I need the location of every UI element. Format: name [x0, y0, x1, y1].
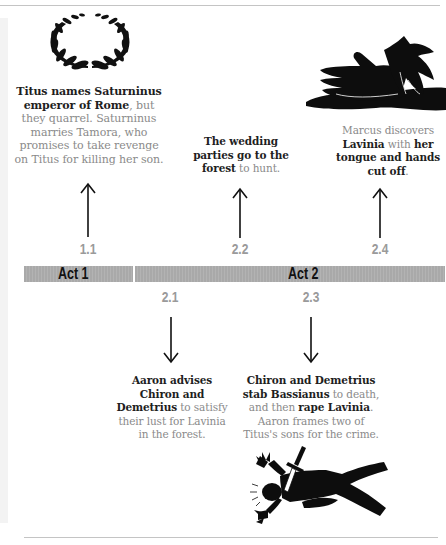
event-2-4-text-a: Marcus discovers: [342, 124, 434, 136]
act-2-label: Act 2: [288, 266, 319, 282]
arrow-up-2-2-icon: [232, 187, 248, 239]
event-2-3-bold-b: rape Lavinia: [298, 401, 370, 413]
bottom-rule: [24, 537, 438, 538]
event-2-4-bold-a: Lavinia: [343, 138, 385, 150]
scene-label-2-4: 2.4: [364, 240, 396, 257]
laurel-wreath-icon: [44, 12, 136, 74]
scene-label-2-3: 2.3: [295, 288, 327, 305]
event-2-2-description: The wedding parties go to the forest to …: [186, 135, 296, 176]
event-2-3-description: Chiron and Demetrius stab Bassianus to d…: [240, 374, 382, 442]
event-2-2-body-text: to hunt.: [236, 162, 280, 174]
event-2-4-text-b: with: [385, 138, 414, 150]
act-2-bar: Act 2: [135, 266, 445, 282]
arrow-up-1-1-icon: [80, 182, 96, 238]
side-panel: [0, 18, 8, 523]
event-2-4-text-c: .: [405, 165, 408, 177]
act-1-label: Act 1: [58, 266, 89, 282]
event-2-1-description: Aaron advises Chiron and Demetrius to sa…: [113, 374, 231, 442]
scene-label-1-1: 1.1: [72, 240, 104, 257]
arrow-up-2-4-icon: [372, 187, 388, 239]
severed-hands-icon: [306, 36, 446, 114]
scene-label-2-2: 2.2: [224, 240, 256, 257]
arrow-down-2-1-icon: [163, 316, 179, 364]
act-1-bar: Act 1: [24, 266, 133, 282]
top-rule: [0, 5, 440, 6]
stabbed-figure-icon: [246, 446, 396, 526]
event-1-1-description: Titus names Saturninus emperor of Rome, …: [14, 85, 164, 166]
arrow-down-2-3-icon: [303, 316, 319, 364]
scene-label-2-1: 2.1: [154, 288, 186, 305]
event-2-4-description: Marcus discovers Lavinia with her tongue…: [333, 124, 443, 178]
